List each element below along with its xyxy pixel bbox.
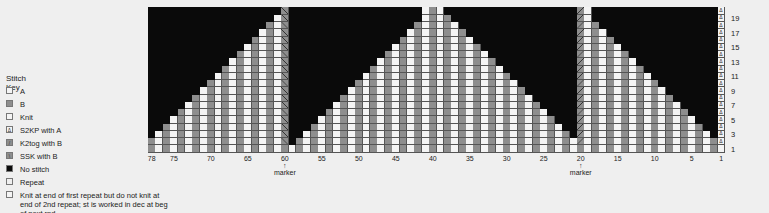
key-item-b: B (6, 100, 170, 109)
no-stitch-swatch-icon (6, 165, 13, 172)
key-item-repeat: Repeat (6, 178, 170, 187)
a-swatch-icon (6, 87, 13, 94)
repeat-swatch-icon (6, 178, 13, 185)
column-label: 75 (170, 155, 178, 162)
s2kp-cell: Δ (718, 130, 726, 138)
s2kp-cell: Δ (718, 58, 726, 66)
s2kp-cell: Δ (718, 36, 726, 44)
s2kp-cell: Δ (718, 29, 726, 37)
key-item-ssk-b: \SSK with B (6, 152, 170, 161)
key-item-s2kp-a: ΔS2KP with A (6, 126, 170, 135)
row-label: 7 (731, 101, 735, 110)
key-item-no-stitch: No stitch (6, 165, 170, 174)
key-item-knit: Knit (6, 113, 170, 122)
column-label: 70 (207, 155, 215, 162)
column-label: 25 (540, 155, 548, 162)
s2kp-cell: Δ (718, 51, 726, 59)
marker-text: marker (274, 169, 296, 176)
marker-label: ↑marker (570, 163, 592, 176)
s2kp-cell: Δ (718, 109, 726, 117)
cell (718, 145, 726, 153)
s2kp-cell: Δ (718, 94, 726, 102)
s2kp-cell: Δ (718, 87, 726, 95)
s2kp-cell: Δ (718, 72, 726, 80)
s2kp-cell: Δ (718, 138, 726, 146)
knit-swatch-icon (6, 113, 13, 120)
knit-end-swatch-icon (6, 191, 13, 198)
column-label: 78 (148, 155, 156, 162)
column-label: 5 (690, 155, 694, 162)
row-label: 5 (731, 116, 735, 125)
s2kp-cell: Δ (718, 43, 726, 51)
b-swatch-icon (6, 100, 13, 107)
ssk-b-swatch-icon: \ (6, 152, 13, 159)
column-label: 35 (466, 155, 474, 162)
column-label: 30 (503, 155, 511, 162)
s2kp-cell: Δ (718, 7, 726, 15)
s2kp-cell: Δ (718, 80, 726, 88)
key-item-knit-end: Knit at end of first repeat but do not k… (6, 191, 170, 200)
row-label: 9 (731, 87, 735, 96)
row-label: 15 (731, 43, 739, 52)
column-label: 60 (281, 155, 289, 162)
row-label: 13 (731, 58, 739, 67)
column-label: 55 (318, 155, 326, 162)
column-label: 40 (429, 155, 437, 162)
s2kp-cell: Δ (718, 101, 726, 109)
column-label: 10 (651, 155, 659, 162)
key-item-k2tog-b: /K2tog with B (6, 139, 170, 148)
row-label: 1 (731, 145, 735, 154)
s2kp-cell: Δ (718, 65, 726, 73)
s2kp-cell: Δ (718, 14, 726, 22)
row-label: 11 (731, 72, 739, 81)
column-label: 65 (244, 155, 252, 162)
row-label: 19 (731, 14, 739, 23)
s2kp-cell: Δ (718, 123, 726, 131)
k2tog-b-swatch-icon: / (6, 139, 13, 146)
key-item-label: Knit at end of first repeat but do not k… (20, 191, 170, 213)
s2kp-cell: Δ (718, 116, 726, 124)
column-label: 1 (719, 155, 723, 162)
column-label: 45 (392, 155, 400, 162)
row-label: 17 (731, 29, 739, 38)
key-item-a: A (6, 87, 170, 96)
row-label: 3 (731, 130, 735, 139)
s2kp-a-swatch-icon: Δ (6, 126, 13, 133)
knitting-chart-grid: ΔΔΔΔΔΔΔΔΔΔΔΔΔΔΔΔΔΔΔ (148, 7, 725, 152)
s2kp-cell: Δ (718, 22, 726, 30)
key-item-label: No stitch (20, 165, 170, 174)
marker-label: ↑marker (274, 163, 296, 176)
column-label: 50 (355, 155, 363, 162)
marker-text: marker (570, 169, 592, 176)
key-item-label: Repeat (20, 178, 170, 187)
column-label: 20 (577, 155, 585, 162)
column-label: 15 (614, 155, 622, 162)
